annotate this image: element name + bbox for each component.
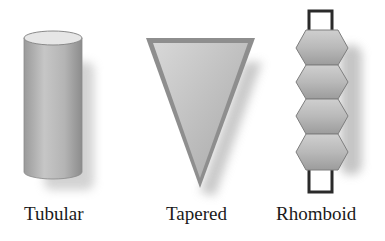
rhomboid-shape bbox=[296, 11, 362, 192]
tapered-shape bbox=[146, 38, 262, 196]
label-tapered: Tapered bbox=[166, 203, 227, 225]
label-tubular: Tubular bbox=[24, 203, 83, 225]
tubular-shape bbox=[24, 31, 94, 190]
label-rhomboid: Rhomboid bbox=[276, 203, 356, 225]
